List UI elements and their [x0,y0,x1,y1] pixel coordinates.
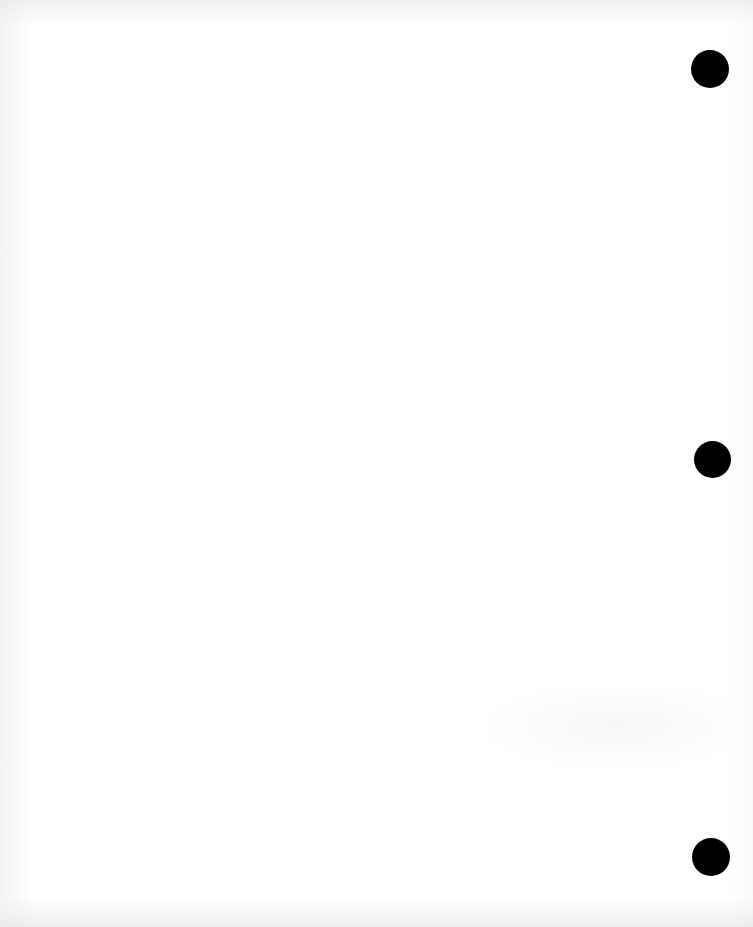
punch-hole-bottom [692,838,730,876]
reverse-side-ghosting [480,690,730,770]
punch-hole-top [691,50,729,88]
punch-hole-middle [694,441,731,478]
page-edge-shading [0,0,753,927]
scanned-page [0,0,753,927]
